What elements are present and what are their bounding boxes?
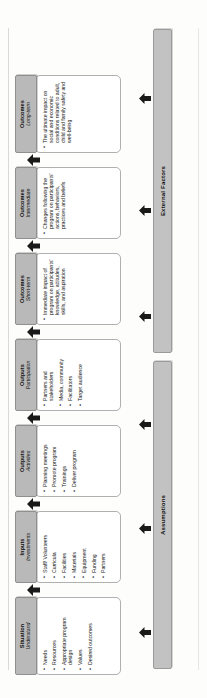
list-item: Partners: [100, 515, 106, 578]
list-item: Trainings: [61, 429, 67, 492]
column-outcomes-intermediate[interactable]: Outcomes Intermediate Changes following …: [15, 167, 121, 239]
column-subtitle: Activities: [25, 428, 31, 494]
column-body-inputs: Staff/ Volunteers Curricula Facilities M…: [34, 511, 120, 583]
column-outputs-participation[interactable]: Outputs Participation Partners and stake…: [15, 339, 121, 411]
logic-model-flow: Situation Understand Needs Resources App…: [15, 23, 141, 675]
flow-arrow-icon: [27, 154, 40, 166]
column-header-situation: Situation Understand: [15, 597, 37, 675]
flow-gap: [15, 497, 141, 511]
column-body-outputs-activities: Planning meetings Promote program Traini…: [34, 425, 120, 497]
list-item: Appropriate program design: [61, 601, 73, 670]
item-list: Partners and stakeholders Media, communi…: [41, 343, 83, 406]
list-item: Staff/ Volunteers: [41, 515, 47, 578]
list-item: Values: [77, 601, 83, 670]
column-subtitle: Short-term: [25, 256, 31, 322]
column-header-outputs-participation: Outputs Participation: [15, 339, 37, 411]
column-title: Inputs: [19, 514, 25, 580]
list-item: Facilities: [61, 515, 67, 578]
list-item: Partners and stakeholders: [41, 343, 53, 406]
column-body-outcomes-long-term: The ultimate impact on social and econom…: [34, 75, 120, 153]
list-item: Curricula: [51, 515, 57, 578]
column-title: Outputs: [19, 428, 25, 494]
column-subtitle: Intermediate: [25, 170, 31, 236]
column-title: Situation: [19, 600, 25, 672]
column-body-outcomes-intermediate: Changes following the program on partici…: [34, 167, 120, 239]
flow-arrow-icon: [27, 412, 40, 424]
assumptions-arrow-icon: [139, 626, 151, 639]
column-header-outcomes-long-term: Outcomes Long-term: [15, 75, 37, 153]
bar-label: External Factors: [159, 166, 165, 216]
logic-model-canvas: Situation Understand Needs Resources App…: [15, 23, 193, 675]
column-title: Outputs: [19, 342, 25, 408]
list-item: Funding: [90, 515, 96, 578]
page-edge-line-right: [198, 28, 199, 670]
flow-arrow-icon: [27, 584, 40, 596]
list-item: Deliver program: [71, 429, 77, 492]
column-outputs-activities[interactable]: Outputs Activities Planning meetings Pro…: [15, 425, 121, 497]
external-factors-arrow-icon: [139, 310, 151, 323]
column-body-outcomes-short-term: Immediate impact of program on participa…: [34, 253, 120, 325]
column-title: Outcomes: [19, 170, 25, 236]
list-item: Facilitators: [67, 343, 73, 406]
bar-label: Assumptions: [159, 495, 165, 535]
flow-arrow-icon: [27, 498, 40, 510]
external-factors-arrow-icon: [139, 204, 151, 217]
body-paragraph: The ultimate impact on social and econom…: [41, 79, 72, 148]
flow-arrow-icon: [27, 326, 40, 338]
list-item: Desired outcomes: [87, 601, 93, 670]
assumptions-arrow-icon: [139, 418, 151, 431]
flow-gap: [15, 325, 141, 339]
list-item: Target audience: [77, 343, 83, 406]
bar-assumptions[interactable]: Assumptions: [153, 361, 172, 669]
column-subtitle: Long-term: [25, 78, 31, 150]
list-item: Planning meetings: [41, 429, 47, 492]
assumptions-arrow-icon: [139, 522, 151, 535]
column-header-outcomes-intermediate: Outcomes Intermediate: [15, 167, 37, 239]
list-item: Promote program: [51, 429, 57, 492]
page-edge-line: [8, 28, 9, 670]
flow-gap: [15, 153, 141, 167]
column-header-outcomes-short-term: Outcomes Short-term: [15, 253, 37, 325]
column-body-situation: Needs Resources Appropriate program desi…: [34, 597, 120, 675]
list-item: Needs: [41, 601, 47, 670]
list-item: Equipment: [80, 515, 86, 578]
column-header-inputs: Inputs Investments: [15, 511, 37, 583]
item-list: Planning meetings Promote program Traini…: [41, 429, 77, 492]
flow-gap: [15, 239, 141, 253]
list-item: Media, community: [57, 343, 63, 406]
item-list: Needs Resources Appropriate program desi…: [41, 601, 93, 670]
column-title: Outcomes: [19, 256, 25, 322]
supporting-bars: Assumptions External Factors: [147, 23, 191, 675]
flow-arrow-icon: [27, 240, 40, 252]
external-factors-arrow-icon: [139, 92, 151, 105]
column-header-outputs-activities: Outputs Activities: [15, 425, 37, 497]
column-title: Outcomes: [19, 78, 25, 150]
list-item: Resources: [51, 601, 57, 670]
column-situation[interactable]: Situation Understand Needs Resources App…: [15, 597, 121, 675]
column-outcomes-long-term[interactable]: Outcomes Long-term The ultimate impact o…: [15, 75, 121, 153]
column-subtitle: Understand: [25, 600, 31, 672]
list-item: Materials: [71, 515, 77, 578]
item-list: Staff/ Volunteers Curricula Facilities M…: [41, 515, 106, 578]
flow-gap: [15, 411, 141, 425]
flow-gap: [15, 583, 141, 597]
body-paragraph: Immediate impact of program on participa…: [41, 257, 66, 320]
body-paragraph: Changes following the program on partici…: [41, 171, 66, 234]
column-body-outputs-participation: Partners and stakeholders Media, communi…: [34, 339, 120, 411]
column-outcomes-short-term[interactable]: Outcomes Short-term Immediate impact of …: [15, 253, 121, 325]
column-subtitle: Participation: [25, 342, 31, 408]
page-sheet: Situation Understand Needs Resources App…: [0, 0, 207, 698]
column-subtitle: Investments: [25, 514, 31, 580]
bar-external-factors[interactable]: External Factors: [153, 29, 172, 353]
column-inputs[interactable]: Inputs Investments Staff/ Volunteers Cur…: [15, 511, 121, 583]
